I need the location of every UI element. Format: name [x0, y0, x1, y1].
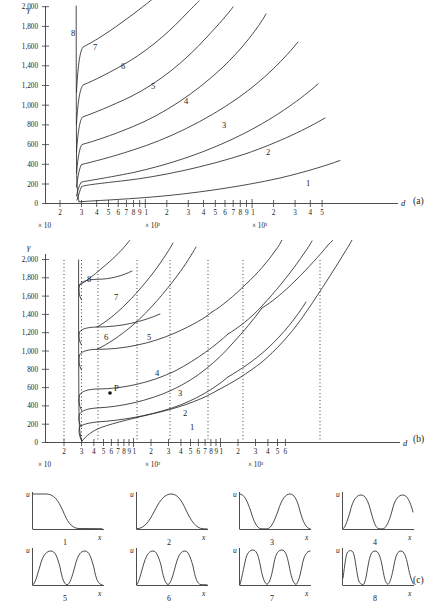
inset-8-y-label: u: [336, 546, 340, 555]
panel-a-curve-8: [77, 0, 156, 92]
panel-b-x-multipliers: × 10 × 10² × 10³: [38, 461, 264, 469]
panel-a-region-5: 5: [151, 81, 155, 91]
panel-a-plot: γ d 0 200 400 600 800 1,000 1,200 1,: [0, 0, 443, 235]
panel-a-curve-5: [77, 14, 267, 173]
panel-a-mult-10: × 10: [38, 222, 51, 230]
inset-8-label: 8: [373, 594, 377, 603]
panel-a-ytick-200: 200: [27, 181, 38, 189]
panel-a-label: (a): [413, 196, 424, 206]
panel-b-ytick-200: 200: [27, 421, 38, 429]
panel-b-xtick-19: 3: [254, 448, 258, 456]
panel-b-ytick-800: 800: [27, 366, 38, 374]
panel-b-region-6: 6: [104, 332, 108, 342]
panel-b-xtick-20: 4: [266, 448, 270, 456]
panel-b-label: (b): [413, 434, 424, 444]
figure-root: γ d 0 200 400 600 800 1,000 1,200 1,: [0, 0, 443, 612]
panel-a-xtick-2: 4: [95, 209, 99, 217]
panel-b-xtick-11: 4: [179, 448, 183, 456]
panel-b-region-4: 4: [155, 368, 160, 378]
panel-a-xtick-20: 4: [309, 209, 313, 217]
panel-b-mult-10: × 10: [38, 461, 51, 469]
panel-b-region-2: 2: [183, 408, 187, 418]
inset-3-label: 3: [270, 538, 274, 547]
inset-5-x-label: x: [97, 589, 102, 598]
panel-b-ytick-1800: 1,800: [22, 274, 39, 282]
panel-a-y-ticks: 0 200 400 600 800 1,000 1,200 1,400 1,60…: [22, 3, 49, 208]
panel-b-plot: γ d 0 200 400 600 800 1,000 1,200 1,400: [0, 240, 443, 472]
inset-4-label: 4: [373, 538, 377, 547]
panel-b-gridlines: [64, 260, 320, 442]
panel-b-curve-4: [79, 334, 228, 410]
panel-b-xtick-22: 6: [284, 448, 288, 456]
panel-a-xtick-4: 6: [116, 209, 120, 217]
panel-b-branch-3: [262, 240, 335, 308]
panel-b-region-3: 3: [178, 388, 182, 398]
panel-a-curve-4: [77, 42, 299, 187]
panel-a-curves: [76, 0, 340, 202]
panel-a-region-4: 4: [184, 96, 189, 106]
panel-b-region-5: 5: [147, 332, 151, 342]
panel-b-xtick-7: 9: [128, 448, 132, 456]
panel-a-region-1: 1: [306, 178, 310, 188]
panel-a-xtick-13: 6: [223, 209, 227, 217]
inset-5-label: 5: [63, 594, 67, 603]
panel-b-ytick-1200: 1,200: [22, 329, 39, 337]
panel-b: γ d 0 200 400 600 800 1,000 1,200 1,400: [0, 240, 443, 472]
panel-b-xtick-9: 2: [149, 448, 153, 456]
panel-a-xtick-5: 7: [125, 209, 129, 217]
inset-4-y-label: u: [336, 490, 340, 499]
panel-a-xtick-10: 3: [187, 209, 191, 217]
panel-b-ytick-600: 600: [27, 384, 38, 392]
panel-a-xtick-3: 5: [107, 209, 111, 217]
panel-a-ytick-1600: 1,600: [22, 43, 39, 51]
panel-a-xtick-1: 3: [80, 209, 84, 217]
panel-b-x-tick-labels: 2 3 4 5 6 7 8 9 1 2 3 4 5 6 7 8 9 1 2 3: [62, 448, 287, 456]
panel-c-inset-1: u x 1: [26, 490, 104, 547]
panel-b-xtick-12: 5: [189, 448, 193, 456]
panel-a-ytick-1200: 1,200: [22, 82, 39, 90]
panel-a-region-8: 8: [71, 28, 75, 38]
panel-a-ytick-1000: 1,000: [22, 102, 39, 110]
panel-b-ytick-1600: 1,600: [22, 293, 39, 301]
panel-b-xtick-3: 5: [102, 448, 106, 456]
inset-7-x-label: x: [304, 589, 309, 598]
panel-a-ytick-400: 400: [27, 161, 38, 169]
panel-a-x-tick-labels: 2 3 4 5 6 7 8 9 1 2 3 4 5 6 7 8 9 1 2 3: [58, 209, 324, 217]
panel-b-xtick-14: 7: [203, 448, 207, 456]
panel-b-ytick-0: 0: [34, 439, 38, 447]
panel-b-curve-1-upper: [218, 240, 352, 390]
panel-c-label: (c): [413, 575, 424, 585]
panel-a-xtick-8: 1: [144, 209, 148, 217]
panel-a-xtick-11: 4: [202, 209, 206, 217]
panel-a-ytick-2000: 2,000: [22, 3, 39, 11]
panel-a-ytick-1400: 1,400: [22, 62, 39, 70]
panel-a-ytick-0: 0: [34, 200, 38, 208]
panel-c-inset-6: u x 6: [130, 546, 208, 603]
panel-a-xtick-18: 2: [272, 209, 276, 217]
panel-c: u x 1 u x 2 u x 3: [0, 472, 443, 612]
panel-a-xtick-14: 7: [231, 209, 235, 217]
panel-b-xtick-17: 1: [220, 448, 224, 456]
panel-b-branch-4: [228, 241, 312, 334]
panel-a-x-axis-label: d: [401, 198, 406, 208]
inset-1-x-label: x: [97, 533, 102, 542]
inset-7-label: 7: [270, 594, 274, 603]
panel-c-inset-8: u x 8: [336, 546, 414, 603]
panel-a-ytick-800: 800: [27, 121, 38, 129]
panel-b-ytick-1400: 1,400: [22, 311, 39, 319]
panel-a-xtick-12: 5: [214, 209, 218, 217]
inset-2-x-label: x: [201, 533, 206, 542]
panel-a-mult-100: × 10²: [145, 222, 160, 230]
panel-b-ytick-2000: 2,000: [22, 256, 39, 264]
panel-a-ytick-1800: 1,800: [22, 23, 39, 31]
panel-b-xtick-1: 3: [80, 448, 84, 456]
inset-2-y-label: u: [130, 490, 134, 499]
panel-b-xtick-5: 7: [116, 448, 120, 456]
panel-a-xtick-21: 5: [320, 209, 324, 217]
panel-a-xtick-15: 8: [239, 209, 243, 217]
panel-c-inset-4: u x 4: [336, 490, 414, 547]
panel-a-mult-1000: × 10³: [252, 222, 268, 230]
inset-7-y-label: u: [233, 546, 237, 555]
panel-a-region-7: 7: [93, 42, 97, 52]
point-marker: [108, 391, 112, 395]
